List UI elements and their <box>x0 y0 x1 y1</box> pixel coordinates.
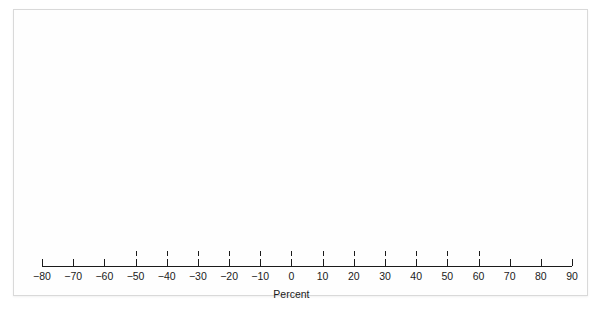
x-axis-tick <box>260 259 261 266</box>
x-axis-tick <box>42 259 43 266</box>
x-axis-tick <box>291 259 292 266</box>
x-axis-tick <box>479 259 480 266</box>
x-axis-tick-label: −10 <box>251 270 269 282</box>
x-axis-tick-label: 50 <box>441 270 453 282</box>
x-axis-tick <box>541 259 542 266</box>
x-axis-tick <box>323 259 324 266</box>
x-axis-tick <box>198 259 199 266</box>
x-axis-tick-label: 20 <box>348 270 360 282</box>
x-axis-tick-label: −40 <box>158 270 176 282</box>
x-axis-tick-label: −50 <box>127 270 145 282</box>
bin-edge-tick <box>291 251 292 256</box>
x-axis-tick-label: −80 <box>33 270 51 282</box>
x-axis-tick-label: 30 <box>379 270 391 282</box>
bin-edge-tick <box>479 251 480 256</box>
x-axis-line <box>42 266 572 267</box>
x-axis-tick-label: 80 <box>535 270 547 282</box>
x-axis-tick <box>354 259 355 266</box>
x-axis-tick-label: 10 <box>317 270 329 282</box>
x-axis-tick <box>572 259 573 266</box>
x-axis-tick <box>104 259 105 266</box>
bin-edge-tick <box>354 251 355 256</box>
bin-edge-tick <box>198 251 199 256</box>
x-axis-tick <box>416 259 417 266</box>
bin-edge-tick <box>385 251 386 256</box>
x-axis-tick-label: −20 <box>220 270 238 282</box>
x-axis-tick <box>447 259 448 266</box>
x-axis-tick <box>385 259 386 266</box>
x-axis-tick-label: 90 <box>566 270 578 282</box>
x-axis-tick-label: −70 <box>64 270 82 282</box>
x-axis-tick <box>136 259 137 266</box>
bin-edge-tick <box>260 251 261 256</box>
x-axis-title: Percent <box>273 288 309 300</box>
figure-panel: −80−70−60−50−40−30−20−100102030405060708… <box>0 0 603 309</box>
x-axis-tick <box>73 259 74 266</box>
x-axis-tick-label: 0 <box>289 270 295 282</box>
x-axis-tick-label: −30 <box>189 270 207 282</box>
x-axis-tick <box>229 259 230 266</box>
x-axis-tick <box>510 259 511 266</box>
x-axis-tick <box>167 259 168 266</box>
bin-edge-tick <box>323 251 324 256</box>
x-axis-tick-label: 70 <box>504 270 516 282</box>
bin-edge-tick <box>136 251 137 256</box>
bin-edge-tick <box>229 251 230 256</box>
bin-edge-tick <box>416 251 417 256</box>
x-axis-tick-label: 40 <box>410 270 422 282</box>
bin-edge-tick <box>447 251 448 256</box>
bin-edge-tick <box>167 251 168 256</box>
dot-plot-canvas: −80−70−60−50−40−30−20−100102030405060708… <box>0 0 603 309</box>
x-axis-tick-label: −60 <box>95 270 113 282</box>
x-axis-tick-label: 60 <box>473 270 485 282</box>
